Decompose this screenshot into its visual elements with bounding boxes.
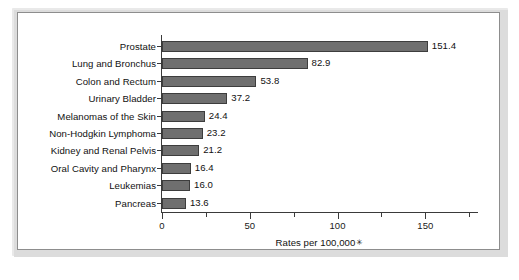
category-label: Pancreas [115, 198, 156, 209]
bar-value-label: 23.2 [207, 127, 226, 138]
category-label: Oral Cavity and Pharynx [51, 163, 156, 174]
x-axis-tick-label: 50 [230, 220, 270, 231]
bar-value-label: 24.4 [209, 110, 228, 121]
x-axis-minor-tick [381, 213, 382, 217]
bar-row: Prostate151.4 [18, 39, 501, 56]
x-axis-title: Rates per 100,000✳ [161, 237, 478, 248]
figure-page: Prostate151.4Lung and Bronchus82.9Colon … [0, 0, 519, 280]
category-label: Colon and Rectum [76, 76, 156, 87]
bar-row: Leukemias16.0 [18, 178, 501, 195]
y-axis-tick [157, 63, 162, 64]
x-axis-minor-tick [294, 213, 295, 217]
category-label: Urinary Bladder [89, 93, 156, 104]
bar[interactable] [162, 180, 190, 191]
bar-chart-plot-area: Prostate151.4Lung and Bronchus82.9Colon … [18, 13, 501, 251]
bar[interactable] [162, 58, 308, 69]
y-axis-tick [157, 81, 162, 82]
y-axis-tick [157, 133, 162, 134]
y-axis-tick [157, 116, 162, 117]
x-axis-major-tick [162, 213, 163, 219]
category-label: Kidney and Renal Pelvis [51, 145, 156, 156]
bar-value-label: 13.6 [190, 197, 209, 208]
bar-row: Non-Hodgkin Lymphoma23.2 [18, 126, 501, 143]
bar[interactable] [162, 111, 205, 122]
bar-value-label: 16.4 [195, 162, 214, 173]
bar-value-label: 82.9 [312, 57, 331, 68]
bar-row: Colon and Rectum53.8 [18, 74, 501, 91]
x-axis-major-tick [250, 213, 251, 219]
y-axis-tick [157, 168, 162, 169]
category-label: Prostate [120, 41, 156, 52]
bar-row: Pancreas13.6 [18, 196, 501, 213]
x-axis-tick-label: 150 [405, 220, 445, 231]
bar[interactable] [162, 145, 199, 156]
category-label: Leukemias [109, 180, 156, 191]
bar[interactable] [162, 93, 227, 104]
bar-row: Urinary Bladder37.2 [18, 91, 501, 108]
bar[interactable] [162, 41, 428, 52]
bar-row: Oral Cavity and Pharynx16.4 [18, 161, 501, 178]
x-axis-minor-tick [469, 213, 470, 217]
bar-row: Kidney and Renal Pelvis21.2 [18, 143, 501, 160]
x-axis-major-tick [425, 213, 426, 219]
footnote-marker-icon: ✳ [355, 238, 363, 247]
x-axis-tick-label: 0 [142, 220, 182, 231]
y-axis-tick [157, 185, 162, 186]
bar[interactable] [162, 76, 256, 87]
y-axis-tick [157, 46, 162, 47]
bar-value-label: 151.4 [432, 40, 456, 51]
bar-row: Lung and Bronchus82.9 [18, 56, 501, 73]
category-label: Non-Hodgkin Lymphoma [49, 128, 156, 139]
x-axis-minor-tick [206, 213, 207, 217]
bar-value-label: 21.2 [203, 144, 222, 155]
category-label: Melanomas of the Skin [57, 111, 156, 122]
y-axis-tick [157, 98, 162, 99]
category-label: Lung and Bronchus [72, 58, 156, 69]
bar-value-label: 37.2 [231, 92, 250, 103]
y-axis-tick [157, 203, 162, 204]
bar-value-label: 16.0 [194, 179, 213, 190]
bar[interactable] [162, 163, 191, 174]
bar-row: Melanomas of the Skin24.4 [18, 109, 501, 126]
bar[interactable] [162, 198, 186, 209]
bar-value-label: 53.8 [260, 75, 279, 86]
bar[interactable] [162, 128, 203, 139]
y-axis-tick [157, 150, 162, 151]
x-axis-tick-label: 100 [318, 220, 358, 231]
x-axis-major-tick [338, 213, 339, 219]
chart-frame: Prostate151.4Lung and Bronchus82.9Colon … [17, 12, 500, 250]
x-axis-title-text: Rates per 100,000 [276, 237, 356, 248]
